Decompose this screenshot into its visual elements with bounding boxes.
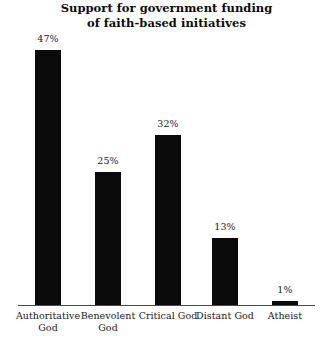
bar-value-label: 47% (37, 33, 58, 44)
x-tick-line-1: Benevolent (81, 310, 136, 321)
x-tick-line-2: God (71, 322, 145, 334)
bar-authoritative-god[interactable] (35, 50, 61, 305)
bar-group-atheist: 1% (255, 45, 315, 305)
bar-critical-god[interactable] (155, 135, 181, 305)
chart-figure: Support for government funding of faith-… (0, 0, 333, 355)
bar-group-benevolent-god: 25% (78, 45, 138, 305)
bar-group-distant-god: 13% (195, 45, 255, 305)
plot-area: 47% 25% 32% 13% 1% Authoritative God (0, 0, 333, 355)
bar-distant-god[interactable] (212, 238, 238, 305)
bar-value-label: 32% (157, 118, 178, 129)
bar-group-authoritative-god: 47% (18, 45, 78, 305)
x-axis-line (18, 305, 315, 306)
x-tick-line-1: Atheist (268, 310, 302, 321)
bar-value-label: 1% (277, 284, 292, 295)
bottom-caption (0, 347, 333, 355)
bar-value-label: 25% (97, 155, 118, 166)
bar-group-critical-god: 32% (138, 45, 198, 305)
bar-value-label: 13% (214, 221, 235, 232)
x-tick-line-1: Distant God (196, 310, 254, 321)
x-tick-label-atheist: Atheist (248, 310, 322, 322)
bar-benevolent-god[interactable] (95, 172, 121, 305)
